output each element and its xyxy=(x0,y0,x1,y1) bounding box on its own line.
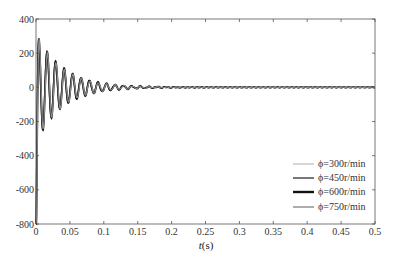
y-tick-label: 400 xyxy=(19,14,34,25)
x-tick-label: 0.25 xyxy=(197,226,215,237)
x-tick-label: 0.45 xyxy=(332,226,350,237)
x-tick-label: 0.05 xyxy=(61,226,79,237)
x-axis-label: t(s) xyxy=(199,239,214,252)
y-tick-label: 0 xyxy=(29,82,34,93)
x-tick-label: 0.2 xyxy=(165,226,178,237)
y-tick-label: -200 xyxy=(16,116,34,127)
y-tick-label: -800 xyxy=(16,219,34,230)
legend: ϕ=300r/minϕ=450r/minϕ=600r/minϕ=750r/min xyxy=(293,158,366,212)
legend-label: ϕ=450r/min xyxy=(318,172,366,183)
x-tick-label: 0.5 xyxy=(369,226,382,237)
y-axis: -800-600-400-2000200400 xyxy=(16,14,375,230)
y-tick-label: 200 xyxy=(19,48,34,59)
x-tick-label: 0.15 xyxy=(129,226,147,237)
legend-label: ϕ=600r/min xyxy=(318,186,366,197)
x-tick-label: 0.35 xyxy=(265,226,283,237)
y-tick-label: -600 xyxy=(16,184,34,195)
legend-label: ϕ=300r/min xyxy=(318,158,366,169)
x-tick-label: 0.3 xyxy=(233,226,246,237)
x-tick-label: 0.4 xyxy=(301,226,314,237)
legend-label: ϕ=750r/min xyxy=(318,201,366,212)
x-tick-label: 0 xyxy=(34,226,39,237)
line-chart: 00.050.10.150.20.250.30.350.40.450.5 -80… xyxy=(0,0,395,265)
x-tick-label: 0.1 xyxy=(98,226,111,237)
y-tick-label: -400 xyxy=(16,150,34,161)
